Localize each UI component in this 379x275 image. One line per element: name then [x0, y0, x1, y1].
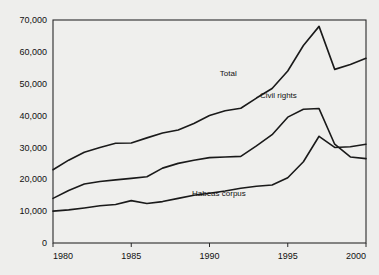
x-tick-label: 2000 [346, 251, 366, 261]
x-tick-label: 1980 [53, 251, 73, 261]
y-tick-label: 40,000 [19, 111, 47, 121]
y-tick-label: 60,000 [19, 47, 47, 57]
series-annotation-habeas-corpus: Habeas corpus [192, 189, 246, 198]
chart-canvas: 010,00020,00030,00040,00050,00060,00070,… [0, 0, 379, 275]
y-tick-label: 50,000 [19, 79, 47, 89]
series-annotation-civil-rights: Civil rights [260, 91, 297, 100]
y-tick-label: 70,000 [19, 15, 47, 25]
x-tick-label: 1985 [121, 251, 141, 261]
y-tick-label: 20,000 [19, 174, 47, 184]
y-tick-label: 10,000 [19, 206, 47, 216]
plot-frame [53, 20, 366, 243]
x-tick-label: 1990 [199, 251, 219, 261]
y-tick-label: 30,000 [19, 143, 47, 153]
series-annotation-total: Total [220, 69, 237, 78]
y-tick-label: 0 [42, 238, 47, 248]
x-tick-label: 1995 [278, 251, 298, 261]
line-chart: 010,00020,00030,00040,00050,00060,00070,… [0, 0, 379, 275]
